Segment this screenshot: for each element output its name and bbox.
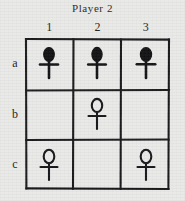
cell-b1[interactable] (25, 89, 73, 140)
ankh-filled-icon (84, 46, 110, 80)
board-cells (25, 38, 170, 190)
row-header-b: b (6, 89, 24, 140)
row-header-a: a (6, 38, 24, 89)
ankh-outline-icon (36, 148, 62, 182)
ankh-outline-icon (84, 97, 110, 131)
row-header-column: a b c (6, 38, 24, 190)
cell-b3[interactable] (122, 89, 170, 140)
cell-c2[interactable] (73, 139, 121, 190)
cell-a2[interactable] (73, 38, 121, 89)
cell-a3[interactable] (122, 38, 170, 89)
column-header-2: 2 (73, 20, 121, 36)
cell-c3[interactable] (122, 139, 170, 190)
column-header-1: 1 (25, 20, 73, 36)
column-header-row: 1 2 3 (25, 20, 170, 36)
page-title: Player 2 (0, 2, 185, 14)
ankh-filled-icon (133, 46, 159, 80)
ankh-filled-icon (36, 46, 62, 80)
cell-a1[interactable] (25, 38, 73, 89)
row-header-c: c (6, 139, 24, 190)
cell-c1[interactable] (25, 139, 73, 190)
ankh-outline-icon (133, 148, 159, 182)
cell-b2[interactable] (73, 89, 121, 140)
column-header-3: 3 (122, 20, 170, 36)
